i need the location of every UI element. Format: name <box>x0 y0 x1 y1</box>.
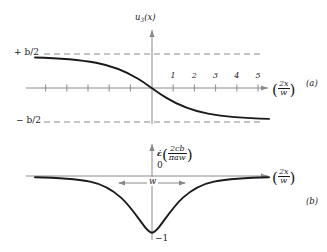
panel-a-y-axis-label: u3(x) <box>135 13 156 23</box>
panel-a-xtick-label-2: 2 <box>192 71 197 80</box>
panel-a-upper-asymptote-label: + b/2 <box>14 48 39 57</box>
panel-b-axes <box>26 144 268 240</box>
panel-a-xtick-label-5: 5 <box>255 71 260 80</box>
panel-a-xtick-label-4: 4 <box>234 71 239 80</box>
plot-canvas <box>0 0 327 252</box>
panel-a-xtick-label-1: 1 <box>171 71 176 80</box>
panel-b-zero-label: 0 <box>157 161 163 170</box>
panel-a-x-axis-label: (2xw) <box>272 80 295 98</box>
panel-b-label: (b) <box>306 196 318 206</box>
panel-a-xtick-label-3: 3 <box>213 71 218 80</box>
panel-a-axes <box>26 30 268 124</box>
panel-b-width-marker-label: w <box>147 177 158 186</box>
panel-b-min-label: −1 <box>155 234 168 243</box>
figure-two-panel-plot: u3(x) + b/2 − b/2 1 2 3 4 5 (2xw) (a) ε̇… <box>0 0 327 252</box>
panel-a-lower-asymptote-label: − b/2 <box>16 116 41 125</box>
panel-b-x-axis-label: (2xw) <box>272 168 295 186</box>
panel-a-label: (a) <box>306 78 318 88</box>
